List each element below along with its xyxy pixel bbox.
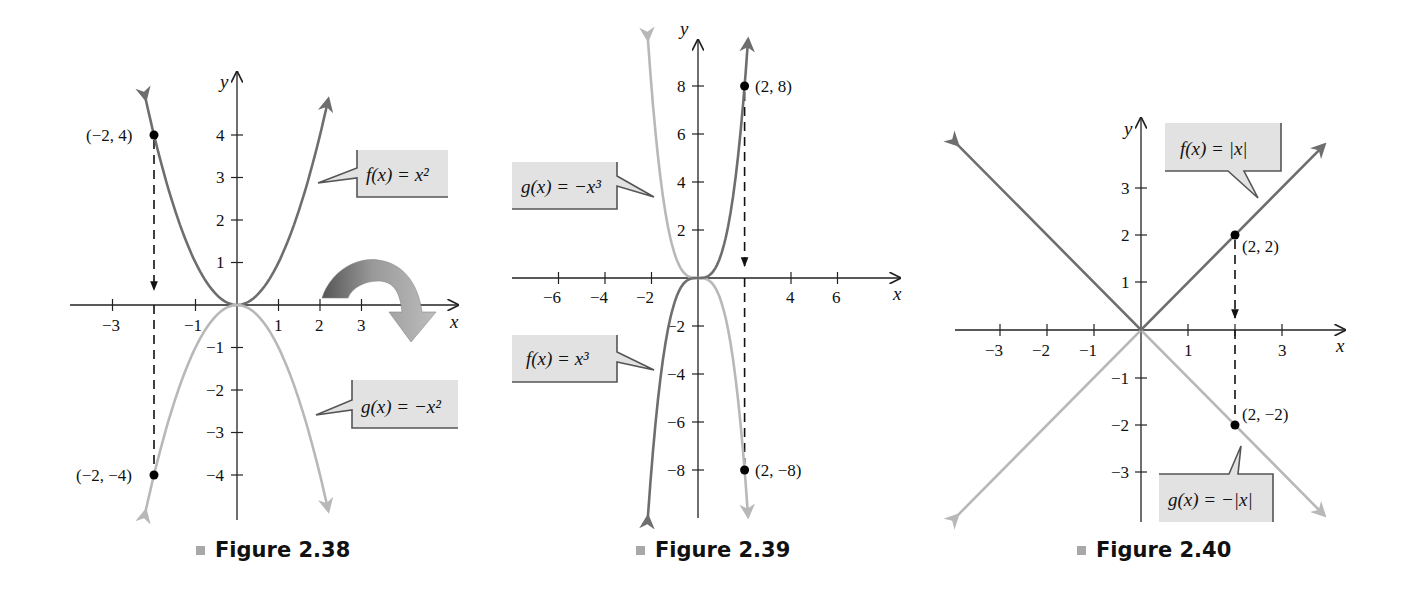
point-2-2	[1231, 231, 1240, 240]
point-label: (2, −8)	[755, 461, 801, 480]
f-label-callout: f(x) = x²	[318, 150, 448, 197]
y-tick-label: 4	[216, 126, 225, 145]
figure-caption: Figure 2.39	[636, 538, 790, 562]
x-tick-label: −3	[985, 341, 1003, 360]
y-axis-label: y	[218, 71, 229, 92]
y-axis-label: y	[678, 18, 689, 39]
y-tick-label: −3	[1111, 463, 1129, 482]
y-tick-label: 2	[216, 211, 225, 230]
y-tick-label: 1	[216, 253, 225, 272]
caption-text: Figure 2.40	[1096, 538, 1231, 562]
y-tick-label: −3	[206, 423, 224, 442]
x-tick-label: 2	[315, 316, 324, 335]
g-label-text: g(x) = −x³	[521, 176, 601, 198]
y-tick-label: −4	[206, 466, 225, 485]
figure-2-39: x y −6 −4 −2 4 6 8 6 4 2 −2	[512, 18, 902, 518]
x-tick-label: 3	[357, 316, 366, 335]
y-tick-label: −4	[667, 365, 686, 384]
caption-square-icon	[636, 546, 645, 555]
x-tick-label: −3	[102, 316, 120, 335]
g-label-callout: g(x) = −x²	[316, 380, 458, 428]
y-tick-label: −1	[206, 338, 224, 357]
f-label-text: f(x) = x³	[526, 348, 589, 370]
x-tick-label: −6	[543, 288, 561, 307]
figure-caption: Figure 2.40	[1077, 538, 1231, 562]
f-label-text: f(x) = x²	[366, 164, 429, 186]
y-tick-label: −1	[1111, 369, 1129, 388]
x-tick-label: 3	[1278, 341, 1287, 360]
y-tick-label: 1	[1121, 273, 1130, 292]
g-label-text: g(x) = −x²	[361, 396, 441, 418]
x-tick-label: 4	[786, 288, 795, 307]
y-tick-label: 8	[677, 77, 686, 96]
figure-2-38: x y −3 −1 1 2 3 4 3 2 1 −1	[70, 71, 459, 520]
point-label: (−2, −4)	[76, 466, 132, 485]
x-tick-label: −2	[1032, 341, 1050, 360]
x-axis-label: x	[449, 311, 459, 332]
y-tick-label: −8	[667, 461, 685, 480]
figure-caption: Figure 2.38	[196, 538, 350, 562]
figures-canvas: x y −3 −1 1 2 3 4 3 2 1 −1	[0, 0, 1412, 597]
point-2-neg8	[740, 466, 749, 475]
y-tick-label: 3	[1121, 179, 1130, 198]
caption-text: Figure 2.38	[215, 538, 350, 562]
f-label-callout: f(x) = x³	[512, 335, 654, 382]
point-2-neg2	[1231, 421, 1240, 430]
y-tick-label: −6	[667, 413, 685, 432]
caption-text: Figure 2.39	[655, 538, 790, 562]
g-label-callout: g(x) = −x³	[512, 162, 654, 209]
x-tick-label: 1	[274, 316, 283, 335]
reflection-arrow-icon	[322, 260, 436, 342]
y-tick-label: 2	[1121, 226, 1130, 245]
y-tick-label: −2	[206, 381, 224, 400]
caption-square-icon	[1077, 546, 1086, 555]
point-2-8	[740, 82, 749, 91]
y-tick-label: −2	[1111, 416, 1129, 435]
x-axis-label: x	[1335, 335, 1345, 356]
point-neg2-neg4	[150, 471, 159, 480]
caption-square-icon	[196, 546, 205, 555]
y-tick-label: 3	[216, 168, 225, 187]
f-label-callout: f(x) = |x|	[1165, 123, 1281, 198]
x-tick-label: −1	[184, 316, 202, 335]
y-tick-label: 4	[677, 173, 686, 192]
y-tick-label: 6	[677, 125, 686, 144]
g-label-callout: g(x) = −|x|	[1159, 446, 1273, 522]
y-tick-label: 2	[677, 221, 686, 240]
point-neg2-4	[150, 131, 159, 140]
x-axis-label: x	[892, 283, 902, 304]
y-axis-label: y	[1122, 118, 1133, 139]
x-tick-label: −2	[636, 288, 654, 307]
point-label: (2, 2)	[1242, 237, 1279, 256]
figure-2-40: x y −3 −2 −1 1 3 3 2 1 −1 −2 −	[955, 118, 1345, 522]
point-label: (2, −2)	[1242, 405, 1288, 424]
x-tick-label: 6	[832, 288, 841, 307]
x-tick-label: −4	[590, 288, 609, 307]
point-label: (2, 8)	[755, 77, 792, 96]
point-label: (−2, 4)	[86, 126, 132, 145]
x-tick-label: 1	[1184, 341, 1193, 360]
g-label-text: g(x) = −|x|	[1168, 489, 1253, 511]
x-tick-label: −1	[1079, 341, 1097, 360]
f-label-text: f(x) = |x|	[1180, 138, 1248, 160]
